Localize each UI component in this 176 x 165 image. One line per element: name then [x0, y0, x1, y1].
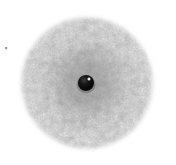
image-canvas	[0, 0, 176, 165]
center-dot	[78, 75, 94, 91]
specular-highlight-icon	[87, 77, 91, 81]
grayscale-disc-figure	[0, 0, 176, 165]
speck-dot	[5, 47, 7, 49]
